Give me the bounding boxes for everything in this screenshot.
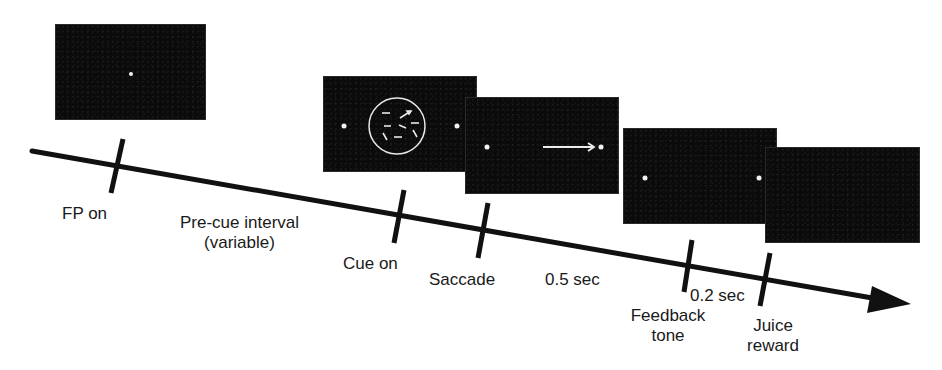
label-pre-cue-line2: (variable): [157, 233, 322, 253]
reward-panel: [765, 147, 920, 243]
right-target-icon: [757, 176, 762, 181]
saccade-panel: [465, 97, 619, 194]
fixation-point-icon: [129, 72, 133, 76]
label-feedback-line2: tone: [622, 326, 714, 346]
saccade-arrow-icon: [465, 97, 619, 194]
label-juice-line2: reward: [737, 336, 809, 356]
label-point-two-second: 0.2 sec: [690, 286, 745, 306]
fixation-panel: [55, 24, 206, 120]
timeline-arrowhead-icon: [867, 286, 911, 313]
label-pre-cue-line1: Pre-cue interval: [157, 213, 322, 233]
label-feedback-tone: Feedback tone: [622, 306, 714, 346]
label-half-second: 0.5 sec: [545, 270, 600, 290]
label-juice-line1: Juice: [737, 316, 809, 336]
left-target-icon: [643, 176, 648, 181]
motion-aperture-icon: [323, 76, 477, 172]
feedback-panel: [623, 128, 777, 224]
label-pre-cue-interval: Pre-cue interval (variable): [157, 213, 322, 253]
label-cue-on: Cue on: [343, 254, 398, 274]
label-juice-reward: Juice reward: [737, 316, 809, 356]
label-feedback-line1: Feedback: [622, 306, 714, 326]
cue-panel: [323, 76, 477, 172]
label-fp-on: FP on: [62, 204, 107, 224]
label-saccade: Saccade: [429, 270, 495, 290]
